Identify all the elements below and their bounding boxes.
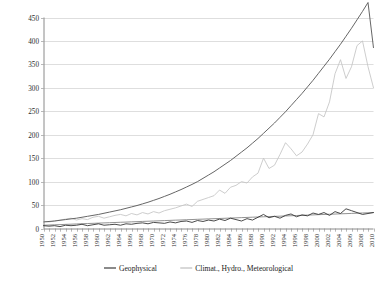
y-axis-tick-label: 450 xyxy=(28,15,39,23)
x-axis-tick-label: 2010 xyxy=(368,233,375,247)
y-axis-tick-label: 100 xyxy=(28,179,39,187)
x-axis-tick-label: 1994 xyxy=(280,233,287,247)
x-axis-tick-label: 1956 xyxy=(71,233,78,247)
x-axis-tick-label: 1968 xyxy=(137,233,144,247)
legend-label: Climat., Hydro., Meteorological xyxy=(195,264,293,273)
x-axis-tick-label: 1996 xyxy=(291,233,298,247)
x-axis-tick-label: 1998 xyxy=(302,233,309,247)
x-axis-tick-label: 1964 xyxy=(115,233,122,247)
x-axis-tick-label: 2006 xyxy=(346,233,353,247)
y-axis: 050100150200250300350400450 xyxy=(28,15,44,234)
chart-legend: GeophysicalClimat., Hydro., Meteorologic… xyxy=(104,264,293,273)
x-axis-tick-label: 1976 xyxy=(181,233,188,247)
x-axis-tick-label: 1950 xyxy=(38,233,45,247)
series-line xyxy=(44,209,374,227)
y-axis-tick-label: 300 xyxy=(28,85,39,93)
x-axis-tick-label: 1986 xyxy=(236,233,243,247)
x-axis-tick-label: 1972 xyxy=(159,234,166,247)
gridlines xyxy=(44,19,374,206)
y-axis-tick-label: 350 xyxy=(28,61,39,69)
chart-container: 050100150200250300350400450 195019521954… xyxy=(0,0,384,282)
x-axis-tick-label: 1966 xyxy=(126,233,133,247)
x-axis-tick-label: 1962 xyxy=(104,234,111,247)
x-axis-tick-label: 1952 xyxy=(49,234,56,247)
y-axis-tick-label: 250 xyxy=(28,108,39,116)
series-line xyxy=(44,213,374,226)
x-axis-tick-label: 2002 xyxy=(324,234,331,247)
x-axis-tick-label: 1992 xyxy=(269,234,276,247)
x-axis-tick-label: 1980 xyxy=(203,233,210,247)
y-axis-tick-label: 150 xyxy=(28,155,39,163)
x-axis-tick-label: 2008 xyxy=(357,233,364,247)
x-axis: 1950195219541956195819601962196419661968… xyxy=(38,229,375,248)
x-axis-tick-label: 1988 xyxy=(247,233,254,247)
x-axis-tick-label: 1954 xyxy=(60,233,67,247)
series-line xyxy=(44,41,374,222)
y-axis-tick-label: 400 xyxy=(28,38,39,46)
y-axis-tick-label: 50 xyxy=(32,202,40,210)
x-axis-tick-label: 2004 xyxy=(335,233,342,247)
x-axis-tick-label: 1970 xyxy=(148,233,155,247)
x-axis-tick-label: 1984 xyxy=(225,233,232,247)
line-chart: 050100150200250300350400450 195019521954… xyxy=(0,0,384,282)
series-line xyxy=(44,3,374,222)
y-axis-tick-label: 0 xyxy=(35,226,39,234)
x-axis-tick-label: 1958 xyxy=(82,233,89,247)
legend-label: Geophysical xyxy=(119,264,157,273)
x-axis-tick-label: 1990 xyxy=(258,233,265,247)
data-series xyxy=(44,3,374,227)
y-axis-tick-label: 200 xyxy=(28,132,39,140)
x-axis-tick-label: 1960 xyxy=(93,233,100,247)
x-axis-tick-label: 1974 xyxy=(170,233,177,247)
x-axis-tick-label: 2000 xyxy=(313,233,320,247)
x-axis-tick-label: 1982 xyxy=(214,234,221,247)
x-axis-tick-label: 1978 xyxy=(192,233,199,247)
